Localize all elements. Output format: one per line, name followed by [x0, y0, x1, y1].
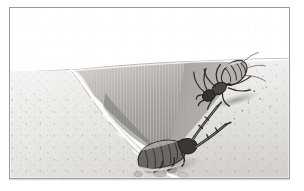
- paper-plate: Antlion pit trap cross-section: [0, 0, 304, 191]
- illustration-figure: Antlion pit trap cross-section: [0, 0, 304, 191]
- scene-drawing: [10, 8, 289, 178]
- scene-sand-pit: [10, 8, 289, 178]
- illustration-frame: [9, 7, 290, 179]
- plate-drop-shadow: [9, 179, 290, 181]
